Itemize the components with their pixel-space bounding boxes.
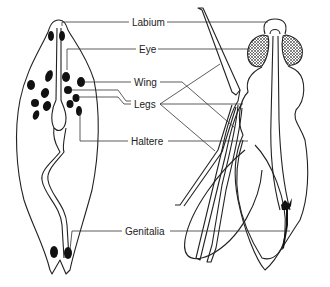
label-labium: Labium bbox=[130, 17, 167, 28]
fly-eye-left bbox=[248, 35, 269, 67]
fly-eye-right bbox=[282, 35, 302, 65]
label-legs: Legs bbox=[132, 99, 158, 110]
fly-leg-1 bbox=[198, 8, 240, 95]
label-eye: Eye bbox=[137, 44, 158, 55]
fly-head bbox=[264, 19, 286, 34]
label-wing: Wing bbox=[132, 77, 159, 88]
label-genitalia: Genitalia bbox=[123, 226, 166, 237]
fly-genitalia bbox=[281, 198, 292, 250]
label-haltere: Haltere bbox=[129, 136, 165, 147]
fly-wing-right bbox=[237, 140, 286, 259]
diagram: Labium Eye Wing Legs Haltere Genitalia bbox=[0, 0, 330, 287]
fly-leg-2 bbox=[175, 105, 232, 205]
